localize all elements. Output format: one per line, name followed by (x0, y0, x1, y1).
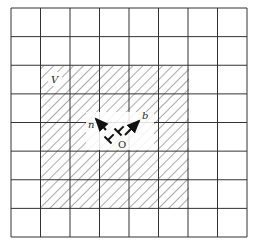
b-vector-label: b (142, 110, 148, 121)
origin-label: O (118, 139, 126, 150)
dislocation-grid-diagram: V n b O (0, 0, 255, 248)
dislocation: n b O (86, 110, 154, 150)
n-vector-label: n (88, 119, 94, 130)
